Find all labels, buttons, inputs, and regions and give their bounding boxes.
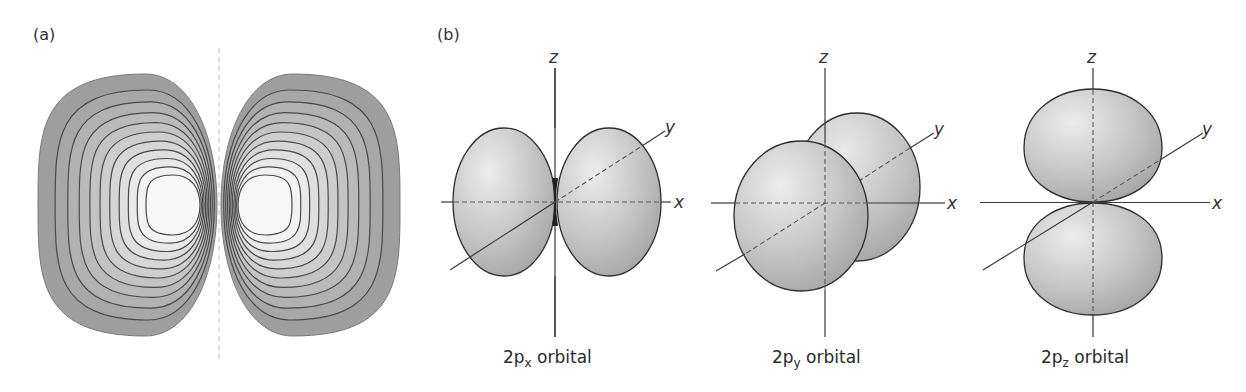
- caption-2pz: 2pz orbital: [1041, 347, 1129, 370]
- caption-2px: 2px orbital: [503, 347, 592, 370]
- y-axis-label: y: [933, 119, 945, 139]
- orbital-2py: z y x 2py orbital: [711, 47, 958, 370]
- z-axis-label: z: [818, 47, 829, 67]
- caption-main: 2p: [1041, 347, 1063, 367]
- x-axis-label: x: [1211, 193, 1223, 213]
- lobe-top: [1024, 89, 1162, 202]
- caption-rest: orbital: [532, 347, 592, 367]
- caption-main: 2p: [503, 347, 525, 367]
- y-axis-front: [910, 133, 934, 148]
- caption-rest: orbital: [801, 347, 861, 367]
- caption-subscript: y: [794, 356, 801, 370]
- contour-line: [146, 175, 200, 235]
- y-axis-back: [716, 254, 745, 271]
- panel-a: (a): [33, 25, 400, 362]
- caption-main: 2p: [772, 347, 794, 367]
- orbital-figure: (a) (b) z y x 2px orbital: [0, 0, 1246, 392]
- y-axis-front: [1160, 133, 1203, 160]
- z-axis-label: z: [1086, 47, 1097, 67]
- z-axis-label: z: [548, 47, 559, 67]
- contour-lobe-right: [221, 74, 400, 336]
- caption-2py: 2py orbital: [772, 347, 861, 370]
- contour-lobe-left: [38, 74, 217, 336]
- lobe-front: [734, 141, 868, 291]
- panel-b: (b) z y x 2px orbital: [437, 25, 1223, 370]
- y-axis-label: y: [1201, 119, 1213, 139]
- orbital-2pz: z y x 2pz orbital: [980, 47, 1223, 370]
- y-axis-label: y: [664, 117, 676, 137]
- panel-b-label: (b): [437, 25, 460, 44]
- x-axis-label: x: [673, 192, 685, 212]
- contour-line: [238, 175, 292, 235]
- x-axis-label: x: [946, 193, 958, 213]
- orbital-2px: z y x 2px orbital: [441, 47, 685, 370]
- y-axis-front: [642, 131, 665, 146]
- caption-subscript: x: [525, 356, 532, 370]
- panel-a-label: (a): [33, 25, 55, 44]
- caption-rest: orbital: [1069, 347, 1129, 367]
